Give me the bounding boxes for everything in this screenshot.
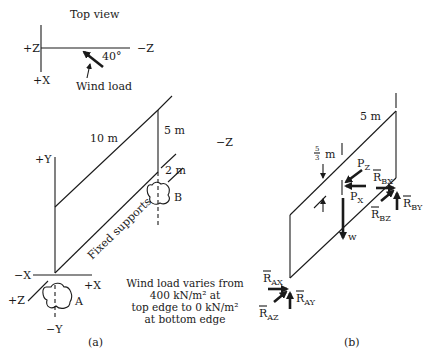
axis-label-plus-y: +Y bbox=[35, 153, 52, 166]
fraction-unit: m bbox=[325, 148, 336, 161]
caption-b: (b) bbox=[344, 336, 360, 349]
wind-load-note: Wind load varies from 400 kN/m² at top e… bbox=[126, 277, 244, 325]
support-a-blob bbox=[43, 283, 72, 308]
note-line-2: 400 kN/m² at bbox=[150, 289, 221, 301]
dimension-ext-top bbox=[158, 96, 172, 110]
force-pz-label: PZ bbox=[357, 157, 370, 172]
note-line-1: Wind load varies from bbox=[126, 277, 244, 289]
caption-a: (a) bbox=[88, 336, 103, 349]
note-line-3: top edge to 0 kN/m² bbox=[132, 301, 239, 313]
wind-load-label: Wind load bbox=[76, 80, 132, 93]
force-px-label: PX bbox=[350, 190, 363, 205]
axis-label-minus-x: −X bbox=[14, 269, 31, 282]
reaction-rbx-label: RBX bbox=[373, 171, 393, 186]
axis-label-plus-z: +Z bbox=[23, 42, 40, 55]
reaction-rbz-arrow bbox=[381, 191, 393, 201]
fixed-supports-label: Fixed supports bbox=[85, 195, 154, 262]
axis-label-minus-z-a: −Z bbox=[216, 136, 233, 149]
dim-ext-lower bbox=[314, 196, 326, 208]
diagram-canvas: Top view +Z −Z +X 40° Wind load +Y −Y −X… bbox=[0, 0, 432, 361]
reaction-raz-arrow bbox=[274, 292, 286, 302]
top-view-title: Top view bbox=[70, 8, 120, 21]
force-pz-arrow bbox=[346, 170, 362, 182]
wind-load-leader bbox=[87, 64, 90, 78]
dim-height-label: 5 m bbox=[164, 124, 185, 137]
top-view: Top view +Z −Z +X 40° Wind load bbox=[23, 8, 154, 93]
reaction-rax-label: RAX bbox=[263, 272, 283, 287]
panel-bottom-edge bbox=[55, 172, 158, 273]
note-line-4: at bottom edge bbox=[145, 313, 226, 325]
reaction-raz-label: RAZ bbox=[259, 307, 279, 322]
dim-offset-label: 2 m bbox=[165, 164, 186, 177]
dim-length-label: 10 m bbox=[90, 132, 118, 145]
weight-label: w bbox=[348, 231, 357, 242]
panel-top-edge bbox=[55, 110, 158, 207]
figure-a: +Y −Y −X +X +Z −Z 10 m 5 m 2 m B A Fixed… bbox=[8, 96, 244, 349]
support-b-label: B bbox=[174, 191, 182, 204]
reaction-rby-label: RBY bbox=[403, 197, 423, 212]
reaction-rbz-label: RBZ bbox=[371, 208, 391, 223]
axis-label-plus-x: +X bbox=[33, 74, 50, 87]
angle-label: 40° bbox=[102, 50, 122, 63]
axis-label-minus-y: −Y bbox=[46, 323, 63, 336]
dim-height-b: 5 m bbox=[360, 110, 381, 123]
axis-label-plus-z-a: +Z bbox=[8, 294, 25, 307]
fraction-denominator: 3 bbox=[315, 154, 319, 162]
figure-b: 5 m 5 3 m PZ PX w RBX RBZ RBY RAX bbox=[259, 93, 423, 349]
reaction-ray-label: RAY bbox=[296, 292, 316, 307]
axis-label-plus-x-a: +X bbox=[84, 279, 101, 292]
axis-label-minus-z: −Z bbox=[137, 42, 154, 55]
fraction-numerator: 5 bbox=[315, 145, 319, 153]
wind-load-arrow bbox=[84, 52, 103, 67]
support-a-label: A bbox=[74, 295, 84, 308]
